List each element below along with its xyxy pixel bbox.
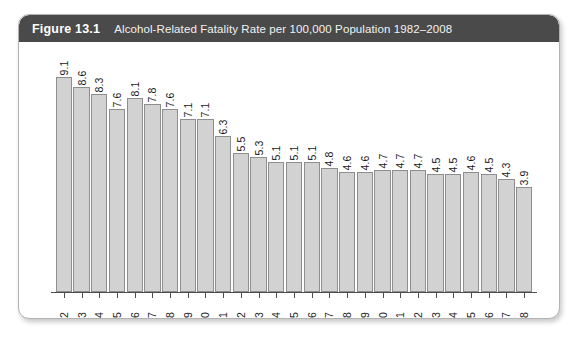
- x-axis-label-2003: 2003: [427, 298, 443, 319]
- x-axis-label-text: 1992: [235, 312, 247, 319]
- bar-value-label: 7.1: [182, 103, 194, 118]
- x-axis-label-1986: 1986: [127, 298, 143, 319]
- bar-rect: [339, 172, 355, 292]
- bar-1993[interactable]: 5.3: [250, 42, 266, 292]
- bar-2000[interactable]: 4.7: [374, 42, 390, 292]
- bar-2005[interactable]: 4.6: [463, 42, 479, 292]
- x-axis-label-text: 1982: [58, 312, 70, 319]
- bar-1984[interactable]: 8.3: [91, 42, 107, 292]
- bar-rect: [250, 157, 266, 292]
- bar-rect: [197, 119, 213, 292]
- figure-title: Alcohol-Related Fatality Rate per 100,00…: [114, 23, 452, 35]
- bar-rect: [180, 119, 196, 292]
- bar-1996[interactable]: 5.1: [304, 42, 320, 292]
- bar-series: 9.18.68.37.68.17.87.67.17.16.35.55.35.15…: [55, 42, 533, 292]
- bar-value-label: 4.7: [377, 154, 389, 169]
- bar-1986[interactable]: 8.1: [127, 42, 143, 292]
- bar-1994[interactable]: 5.1: [268, 42, 284, 292]
- x-axis-label-text: 1987: [146, 312, 158, 319]
- bar-2007[interactable]: 4.3: [498, 42, 514, 292]
- x-axis-label-text: 1989: [182, 312, 194, 319]
- x-axis-label-2006: 2006: [481, 298, 497, 319]
- x-axis-label-1997: 1997: [321, 298, 337, 319]
- bar-rect: [268, 162, 284, 292]
- bar-2003[interactable]: 4.5: [427, 42, 443, 292]
- bar-2001[interactable]: 4.7: [392, 42, 408, 292]
- bar-1998[interactable]: 4.6: [339, 42, 355, 292]
- figure-header: Figure 13.1 Alcohol-Related Fatality Rat…: [19, 15, 559, 42]
- x-axis-label-1995: 1995: [286, 298, 302, 319]
- bar-value-label: 4.8: [323, 151, 335, 166]
- bar-value-label: 4.6: [341, 156, 353, 171]
- bar-1992[interactable]: 5.5: [233, 42, 249, 292]
- bar-rect: [445, 174, 461, 292]
- x-axis-label-1988: 1988: [162, 298, 178, 319]
- bar-value-label: 7.8: [146, 88, 158, 103]
- x-axis-label-1992: 1992: [233, 298, 249, 319]
- bar-value-label: 4.5: [483, 158, 495, 173]
- bar-1999[interactable]: 4.6: [357, 42, 373, 292]
- bar-2006[interactable]: 4.5: [481, 42, 497, 292]
- bar-1995[interactable]: 5.1: [286, 42, 302, 292]
- x-axis-label-text: 2001: [394, 312, 406, 319]
- bar-value-label: 4.7: [412, 154, 424, 169]
- figure-card: Figure 13.1 Alcohol-Related Fatality Rat…: [18, 14, 560, 319]
- bar-2008[interactable]: 3.9: [516, 42, 532, 292]
- bar-value-label: 4.6: [465, 156, 477, 171]
- x-axis-label-2008: 2008: [516, 298, 532, 319]
- bar-2002[interactable]: 4.7: [410, 42, 426, 292]
- bar-2004[interactable]: 4.5: [445, 42, 461, 292]
- bar-value-label: 3.9: [518, 171, 530, 186]
- figure-number: Figure 13.1: [32, 22, 100, 36]
- bar-value-label: 5.1: [306, 145, 318, 160]
- bar-rect: [427, 174, 443, 292]
- x-axis-label-1985: 1985: [109, 298, 125, 319]
- bar-1983[interactable]: 8.6: [73, 42, 89, 292]
- bar-value-label: 7.1: [199, 103, 211, 118]
- bar-1982[interactable]: 9.1: [56, 42, 72, 292]
- x-axis-label-text: 1994: [270, 312, 282, 319]
- bar-value-label: 8.3: [93, 77, 105, 92]
- bar-rect: [374, 170, 390, 292]
- bar-value-label: 8.6: [76, 71, 88, 86]
- x-axis-label-2005: 2005: [463, 298, 479, 319]
- x-axis-label-text: 1997: [323, 312, 335, 319]
- bar-1990[interactable]: 7.1: [197, 42, 213, 292]
- bar-1987[interactable]: 7.8: [144, 42, 160, 292]
- x-axis-label-1994: 1994: [268, 298, 284, 319]
- x-axis-label-1987: 1987: [144, 298, 160, 319]
- bar-1997[interactable]: 4.8: [321, 42, 337, 292]
- x-axis-label-text: 1986: [129, 312, 141, 319]
- x-axis-label-text: 1998: [341, 312, 353, 319]
- bar-value-label: 5.5: [235, 137, 247, 152]
- bar-rect: [392, 170, 408, 292]
- x-axis-label-1990: 1990: [197, 298, 213, 319]
- bar-rect: [304, 162, 320, 292]
- bar-rect: [321, 168, 337, 292]
- bar-value-label: 5.3: [253, 141, 265, 156]
- bar-rect: [286, 162, 302, 292]
- x-axis-label-1982: 1982: [56, 298, 72, 319]
- x-axis-label-1993: 1993: [250, 298, 266, 319]
- bar-rect: [91, 94, 107, 292]
- bar-1991[interactable]: 6.3: [215, 42, 231, 292]
- x-axis-label-text: 2007: [500, 312, 512, 319]
- bar-rect: [127, 98, 143, 292]
- bar-value-label: 7.6: [164, 92, 176, 107]
- bar-1988[interactable]: 7.6: [162, 42, 178, 292]
- bar-value-label: 4.5: [430, 158, 442, 173]
- x-axis-label-text: 2004: [447, 312, 459, 319]
- bar-rect: [162, 109, 178, 293]
- bar-rect: [109, 109, 125, 293]
- screenshot-root: Figure 13.1 Alcohol-Related Fatality Rat…: [0, 0, 580, 347]
- x-axis-label-1984: 1984: [91, 298, 107, 319]
- bar-value-label: 6.3: [217, 120, 229, 135]
- x-axis-label-text: 1999: [359, 312, 371, 319]
- bar-1985[interactable]: 7.6: [109, 42, 125, 292]
- bar-1989[interactable]: 7.1: [180, 42, 196, 292]
- x-axis-label-text: 2008: [518, 312, 530, 319]
- chart-plot-area: 9.18.68.37.68.17.87.67.17.16.35.55.35.15…: [19, 42, 560, 319]
- x-axis-label-text: 2005: [465, 312, 477, 319]
- x-axis-label-text: 1990: [199, 312, 211, 319]
- x-axis-label-text: 1988: [164, 312, 176, 319]
